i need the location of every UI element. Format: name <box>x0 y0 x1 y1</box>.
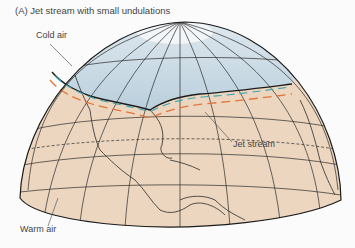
jet-stream-label: Jet stream <box>233 139 275 149</box>
cold-air-leader <box>50 44 72 66</box>
warm-air-label: Warm air <box>20 224 56 234</box>
cold-air-label: Cold air <box>36 30 67 40</box>
